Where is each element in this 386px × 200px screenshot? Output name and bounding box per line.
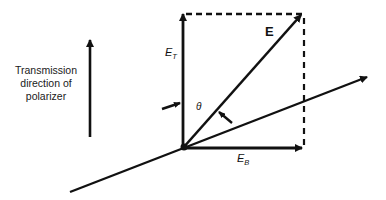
angle-theta-label: θ	[196, 101, 202, 112]
origin-point	[181, 144, 188, 151]
polarization-diagram: E ET EB θ	[0, 0, 386, 200]
dashed-projection-lines	[186, 14, 304, 148]
left-angle-arrow	[162, 103, 180, 109]
field-vector-label: E	[265, 24, 274, 39]
transmitted-component-label: ET	[165, 46, 178, 61]
right-angle-arrow	[219, 112, 232, 123]
electric-field-vector	[183, 15, 301, 148]
blocked-component-label: EB	[237, 152, 249, 167]
propagation-axis-line	[70, 77, 367, 192]
